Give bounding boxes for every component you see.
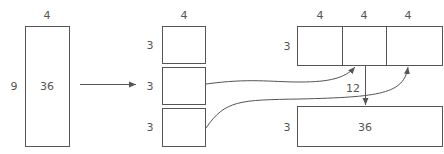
source-value: 36 — [40, 80, 54, 93]
split-row-3-label: 3 — [147, 121, 154, 134]
split-block-1 — [163, 27, 206, 64]
split-width-label: 4 — [181, 9, 188, 22]
concat-row-rect — [298, 27, 443, 66]
result-block: 3 36 — [284, 107, 443, 147]
concat-col-3-label: 4 — [405, 9, 412, 22]
reshape-diagram: 4 9 36 4 3 3 3 4 4 4 3 12 3 36 — [0, 0, 444, 154]
concat-col-2-label: 4 — [361, 9, 368, 22]
concat-row: 4 4 4 3 — [284, 9, 443, 66]
split-block-2 — [163, 68, 206, 105]
concat-col-1-label: 4 — [317, 9, 324, 22]
source-block: 4 9 36 — [11, 9, 70, 147]
source-width-label: 4 — [44, 9, 51, 22]
result-height-label: 3 — [284, 121, 291, 134]
split-blocks: 4 3 3 3 — [147, 9, 206, 147]
curve-arrow-icon-1 — [206, 67, 355, 84]
concat-height-label: 3 — [284, 40, 291, 53]
edge-label: 12 — [346, 82, 360, 95]
split-row-2-label: 3 — [147, 80, 154, 93]
result-value: 36 — [358, 121, 372, 134]
split-block-3 — [163, 109, 206, 147]
split-row-1-label: 3 — [147, 39, 154, 52]
source-height-label: 9 — [11, 80, 18, 93]
